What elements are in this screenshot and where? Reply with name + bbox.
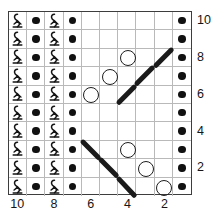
- purl-dot-symbol: [173, 86, 191, 104]
- left-travel-diagonal-symbol: [118, 178, 136, 196]
- column-tick-label: 2: [161, 198, 168, 211]
- knit-blank-cell: [155, 86, 173, 104]
- yarn-over-circle-symbol: [118, 141, 136, 159]
- knit-blank-cell: [118, 30, 136, 48]
- knit-blank-cell: [100, 86, 118, 104]
- purl-dot-symbol: [27, 86, 45, 104]
- yarn-over-circle-symbol: [136, 159, 154, 177]
- knit-blank-cell: [118, 67, 136, 85]
- knit-blank-cell: [100, 141, 118, 159]
- twisted-stitch-symbol: [9, 159, 27, 177]
- column-tick-label: 8: [51, 198, 58, 211]
- left-travel-diagonal-symbol: [100, 159, 118, 177]
- twisted-stitch-symbol: [9, 67, 27, 85]
- knit-blank-cell: [155, 30, 173, 48]
- knit-blank-cell: [82, 104, 100, 122]
- row-tick-label: 8: [197, 51, 204, 64]
- twisted-stitch-symbol: [45, 49, 63, 67]
- knit-blank-cell: [118, 12, 136, 30]
- twisted-stitch-symbol: [9, 178, 27, 196]
- twisted-stitch-symbol: [45, 122, 63, 140]
- knit-blank-cell: [136, 12, 154, 30]
- purl-dot-symbol: [64, 86, 82, 104]
- twisted-stitch-symbol: [9, 30, 27, 48]
- knit-blank-cell: [155, 159, 173, 177]
- purl-dot-symbol: [64, 12, 82, 30]
- purl-dot-symbol: [173, 30, 191, 48]
- knit-blank-cell: [118, 122, 136, 140]
- knit-blank-cell: [136, 141, 154, 159]
- purl-dot-symbol: [27, 104, 45, 122]
- right-travel-diagonal-symbol: [155, 49, 173, 67]
- knit-blank-cell: [82, 67, 100, 85]
- purl-dot-symbol: [173, 141, 191, 159]
- twisted-stitch-symbol: [9, 49, 27, 67]
- twisted-stitch-symbol: [9, 141, 27, 159]
- chart-row: [9, 141, 191, 159]
- knit-blank-cell: [155, 67, 173, 85]
- purl-dot-symbol: [27, 67, 45, 85]
- knit-blank-cell: [155, 122, 173, 140]
- row-tick-label: 6: [197, 88, 204, 101]
- purl-dot-symbol: [64, 122, 82, 140]
- chart-row: [9, 159, 191, 177]
- purl-dot-symbol: [173, 49, 191, 67]
- purl-dot-symbol: [173, 122, 191, 140]
- row-tick-label: 4: [197, 124, 204, 137]
- purl-dot-symbol: [64, 104, 82, 122]
- purl-dot-symbol: [27, 12, 45, 30]
- knit-blank-cell: [82, 122, 100, 140]
- twisted-stitch-symbol: [9, 122, 27, 140]
- purl-dot-symbol: [173, 104, 191, 122]
- knit-blank-cell: [82, 159, 100, 177]
- column-tick-label: 4: [124, 198, 131, 211]
- chart-row: [9, 30, 191, 48]
- knit-blank-cell: [100, 122, 118, 140]
- knit-blank-cell: [155, 141, 173, 159]
- knit-blank-cell: [136, 104, 154, 122]
- column-tick-label: 6: [87, 198, 94, 211]
- row-tick-label: 2: [197, 161, 204, 174]
- purl-dot-symbol: [64, 49, 82, 67]
- knit-blank-cell: [118, 104, 136, 122]
- knit-blank-cell: [100, 178, 118, 196]
- knit-blank-cell: [136, 49, 154, 67]
- purl-dot-symbol: [27, 141, 45, 159]
- knit-blank-cell: [136, 30, 154, 48]
- chart-row: [9, 122, 191, 140]
- purl-dot-symbol: [64, 178, 82, 196]
- knit-blank-cell: [136, 178, 154, 196]
- twisted-stitch-symbol: [9, 86, 27, 104]
- knit-blank-cell: [136, 122, 154, 140]
- purl-dot-symbol: [64, 159, 82, 177]
- purl-dot-symbol: [64, 67, 82, 85]
- purl-dot-symbol: [64, 30, 82, 48]
- twisted-stitch-symbol: [45, 30, 63, 48]
- twisted-stitch-symbol: [45, 178, 63, 196]
- row-tick-label: 10: [197, 14, 211, 27]
- yarn-over-circle-symbol: [118, 49, 136, 67]
- chart-row: [9, 67, 191, 85]
- knit-blank-cell: [136, 86, 154, 104]
- knit-blank-cell: [82, 12, 100, 30]
- yarn-over-circle-symbol: [155, 178, 173, 196]
- twisted-stitch-symbol: [45, 159, 63, 177]
- twisted-stitch-symbol: [9, 12, 27, 30]
- twisted-stitch-symbol: [45, 67, 63, 85]
- chart-grid: [8, 11, 192, 195]
- knit-blank-cell: [155, 12, 173, 30]
- knit-blank-cell: [100, 49, 118, 67]
- twisted-stitch-symbol: [45, 141, 63, 159]
- purl-dot-symbol: [173, 12, 191, 30]
- twisted-stitch-symbol: [9, 104, 27, 122]
- purl-dot-symbol: [27, 159, 45, 177]
- knit-blank-cell: [155, 104, 173, 122]
- knit-blank-cell: [82, 30, 100, 48]
- purl-dot-symbol: [64, 141, 82, 159]
- twisted-stitch-symbol: [45, 12, 63, 30]
- knit-blank-cell: [100, 30, 118, 48]
- knit-blank-cell: [118, 159, 136, 177]
- purl-dot-symbol: [173, 67, 191, 85]
- knit-blank-cell: [100, 104, 118, 122]
- chart-row: [9, 49, 191, 67]
